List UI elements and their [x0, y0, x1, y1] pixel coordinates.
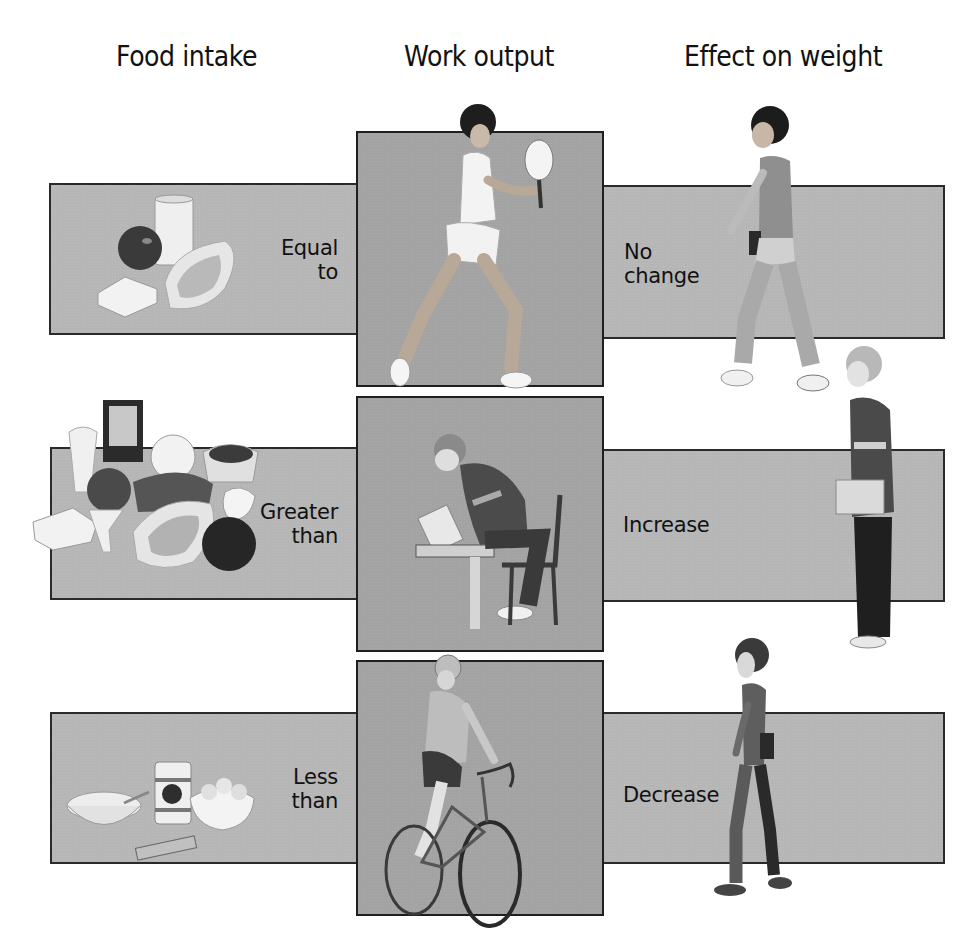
header-effect-on-weight: Effect on weight: [684, 40, 882, 73]
effect-label-no-change: No change: [624, 240, 699, 288]
header-work-output: Work output: [404, 40, 554, 73]
effect-label-increase: Increase: [623, 513, 709, 537]
food-illustration-excess-icon: [33, 392, 263, 577]
heavier-man-standing-icon: [832, 342, 922, 652]
header-food-intake: Food intake: [116, 40, 257, 73]
walking-man-normal-icon: [715, 103, 835, 393]
food-illustration-balanced-icon: [95, 193, 245, 323]
thinner-person-walking-icon: [700, 635, 800, 900]
cyclist-icon: [382, 652, 552, 932]
tennis-player-icon: [388, 100, 558, 390]
student-reading-icon: [410, 420, 580, 635]
effect-label-decrease: Decrease: [623, 783, 719, 807]
intake-label-greater: Greater than: [250, 500, 338, 548]
intake-label-less: Less than: [270, 765, 338, 813]
intake-label-equal: Equal to: [272, 236, 338, 284]
food-illustration-small-icon: [64, 758, 264, 858]
